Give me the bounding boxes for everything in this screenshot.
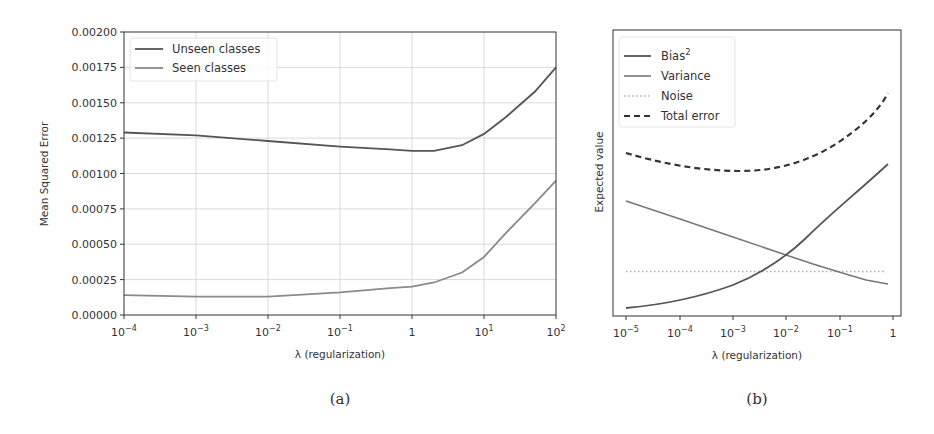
x-tick-label: 10−4 bbox=[111, 324, 137, 339]
y-tick-label: 0.00100 bbox=[72, 168, 118, 181]
chart-b-x-axis-label: λ (regularization) bbox=[712, 349, 802, 361]
legend-label-total-error: Total error bbox=[660, 109, 720, 123]
series-bias-squared bbox=[626, 164, 888, 308]
chart-b-y-axis-label: Expected value bbox=[593, 131, 605, 212]
x-tick-label: 10−5 bbox=[613, 325, 639, 340]
legend-label-seen: Seen classes bbox=[172, 61, 246, 75]
x-tick-label: 10−1 bbox=[327, 324, 353, 339]
chart-a-x-axis-label: λ (regularization) bbox=[295, 348, 385, 360]
y-tick-label: 0.00000 bbox=[72, 309, 118, 322]
x-tick-label: 10−2 bbox=[773, 325, 799, 340]
x-tick-label: 1 bbox=[409, 326, 416, 339]
series-variance bbox=[626, 201, 888, 284]
chart-a: 0.00000 0.00025 0.00050 0.00075 0.00100 … bbox=[38, 26, 566, 408]
chart-a-y-ticks bbox=[120, 32, 124, 315]
y-tick-label: 0.00075 bbox=[72, 203, 118, 216]
chart-b-legend: Bias2 Variance Noise Total error bbox=[619, 37, 735, 127]
legend-label-noise: Noise bbox=[661, 89, 693, 103]
chart-a-x-tick-labels: 10−4 10−3 10−2 10−1 1 101 102 bbox=[111, 324, 565, 339]
x-tick-label: 10−4 bbox=[667, 325, 693, 340]
x-tick-label: 10−1 bbox=[827, 325, 853, 340]
x-tick-label: 10−3 bbox=[183, 324, 209, 339]
chart-b-x-ticks bbox=[626, 316, 893, 320]
caption-a: (a) bbox=[330, 390, 351, 408]
x-tick-label: 1 bbox=[890, 327, 897, 340]
x-tick-label: 102 bbox=[546, 324, 565, 339]
chart-a-x-ticks bbox=[124, 315, 556, 319]
chart-a-legend: Unseen classes Seen classes bbox=[130, 38, 277, 81]
y-tick-label: 0.00175 bbox=[72, 61, 118, 74]
caption-b: (b) bbox=[746, 390, 767, 408]
x-tick-label: 10−2 bbox=[255, 324, 281, 339]
y-tick-label: 0.00200 bbox=[72, 26, 118, 39]
x-tick-label: 101 bbox=[474, 324, 493, 339]
chart-a-y-axis-label: Mean Squared Error bbox=[38, 121, 50, 226]
chart-b: 10−5 10−4 10−3 10−2 10−1 1 λ (regulariza… bbox=[593, 30, 901, 408]
legend-label-unseen: Unseen classes bbox=[172, 42, 260, 56]
x-tick-label: 10−3 bbox=[720, 325, 746, 340]
y-tick-label: 0.00150 bbox=[72, 97, 118, 110]
figure: 0.00000 0.00025 0.00050 0.00075 0.00100 … bbox=[0, 0, 934, 434]
chart-b-x-tick-labels: 10−5 10−4 10−3 10−2 10−1 1 bbox=[613, 325, 896, 340]
y-tick-label: 0.00025 bbox=[72, 274, 118, 287]
chart-a-y-tick-labels: 0.00000 0.00025 0.00050 0.00075 0.00100 … bbox=[72, 26, 118, 322]
legend-label-variance: Variance bbox=[661, 69, 711, 83]
y-tick-label: 0.00125 bbox=[72, 132, 118, 145]
y-tick-label: 0.00050 bbox=[72, 238, 118, 251]
